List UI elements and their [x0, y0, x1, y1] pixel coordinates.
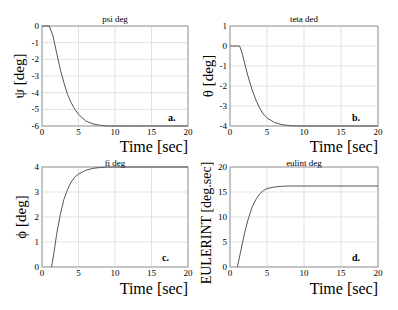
y-tick-label: 10 — [218, 212, 228, 222]
y-tick-label: 1 — [35, 237, 40, 247]
y-axis-label: ϕ [deg] — [13, 195, 29, 238]
y-axis-label: EULERINT [deg.sec] — [200, 162, 214, 285]
y-tick-label: 0 — [223, 262, 228, 272]
x-tick-label: 0 — [228, 268, 233, 278]
y-axis-label: θ [deg] — [200, 55, 216, 98]
y-tick-label: -4 — [220, 121, 228, 131]
y-tick-label: 2 — [35, 212, 40, 222]
panel-label: c. — [162, 252, 169, 263]
x-tick-label: 15 — [337, 268, 347, 278]
panel-label: a. — [168, 112, 176, 123]
y-tick-labels: 10-1-2-3-4 — [220, 21, 228, 131]
chart-panel-c: 43210 05101520 fi deg c. ϕ [deg] Time [s… — [0, 155, 200, 310]
y-tick-label: -1 — [32, 38, 40, 48]
x-axis-label: Time [sec] — [120, 138, 188, 155]
y-tick-label: -2 — [32, 54, 40, 64]
x-tick-labels: 05101520 — [40, 127, 193, 137]
x-tick-label: 10 — [111, 127, 121, 137]
x-tick-label: 0 — [40, 127, 45, 137]
x-tick-label: 10 — [111, 268, 121, 278]
y-tick-label: -5 — [32, 104, 40, 114]
y-tick-label: -4 — [32, 88, 40, 98]
x-tick-label: 10 — [300, 268, 310, 278]
x-tick-label: 5 — [76, 127, 81, 137]
x-tick-label: 0 — [40, 268, 45, 278]
y-tick-label: 15 — [218, 187, 228, 197]
y-tick-label: 4 — [35, 162, 40, 172]
x-tick-labels: 05101520 — [228, 268, 383, 278]
x-tick-labels: 05101520 — [228, 127, 383, 137]
x-tick-label: 5 — [76, 268, 81, 278]
x-tick-label: 20 — [184, 268, 194, 278]
x-tick-label: 20 — [374, 127, 384, 137]
y-tick-labels: 20151050 — [218, 162, 228, 272]
x-axis-label: Time [sec] — [120, 280, 188, 297]
chart-title: teta ded — [290, 14, 319, 24]
y-tick-label: -1 — [220, 61, 228, 71]
y-tick-label: 3 — [35, 187, 40, 197]
chart-panel-d: 20151050 05101520 eulint deg d. EULERINT… — [200, 155, 398, 310]
y-tick-label: 20 — [218, 162, 228, 172]
y-tick-labels: 43210 — [35, 162, 40, 272]
chart-title: psi deg — [102, 14, 128, 24]
chart-title: eulint deg — [286, 158, 322, 168]
x-tick-label: 20 — [374, 268, 384, 278]
y-tick-label: 1 — [223, 21, 228, 31]
panel-label: d. — [352, 252, 361, 263]
y-tick-label: 5 — [223, 237, 228, 247]
grid — [230, 26, 378, 126]
chart-panel-b: 10-1-2-3-4 05101520 teta ded b. θ [deg] … — [200, 0, 398, 155]
x-tick-label: 0 — [228, 127, 233, 137]
x-tick-label: 10 — [300, 127, 310, 137]
y-tick-label: 0 — [35, 21, 40, 31]
chart-panel-a: 0-1-2-3-4-5-6 05101520 psi deg a. ψ [deg… — [0, 0, 200, 155]
x-tick-labels: 05101520 — [40, 268, 193, 278]
chart-d-svg: 20151050 05101520 eulint deg d. EULERINT… — [200, 155, 398, 310]
x-tick-label: 15 — [147, 268, 157, 278]
y-tick-label: -3 — [32, 71, 40, 81]
y-tick-label: 0 — [223, 41, 228, 51]
chart-a-svg: 0-1-2-3-4-5-6 05101520 psi deg a. ψ [deg… — [0, 0, 200, 155]
grid — [42, 26, 188, 126]
y-tick-label: 0 — [35, 262, 40, 272]
x-tick-label: 20 — [184, 127, 194, 137]
y-axis-label: ψ [deg] — [11, 54, 27, 99]
x-tick-label: 15 — [147, 127, 157, 137]
chart-b-svg: 10-1-2-3-4 05101520 teta ded b. θ [deg] … — [200, 0, 398, 155]
chart-title: fi deg — [105, 158, 126, 168]
x-axis-label: Time [sec] — [310, 138, 378, 155]
x-tick-label: 5 — [265, 268, 270, 278]
x-axis-label: Time [sec] — [310, 280, 378, 297]
x-tick-label: 15 — [337, 127, 347, 137]
y-tick-label: -3 — [220, 101, 228, 111]
x-tick-label: 5 — [265, 127, 270, 137]
panel-label: b. — [352, 112, 361, 123]
y-tick-label: -6 — [32, 121, 40, 131]
y-tick-label: -2 — [220, 81, 228, 91]
y-tick-labels: 0-1-2-3-4-5-6 — [32, 21, 40, 131]
chart-c-svg: 43210 05101520 fi deg c. ϕ [deg] Time [s… — [0, 155, 200, 310]
